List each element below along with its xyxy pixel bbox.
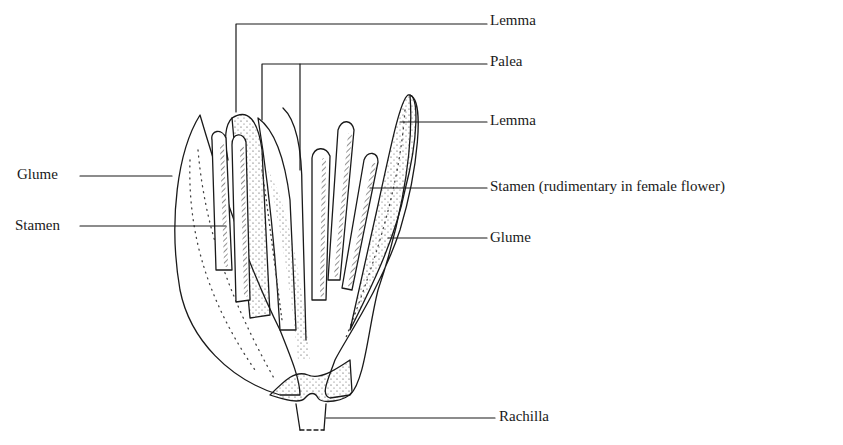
- spikelet-diagram: Lemma Palea Lemma Glume Stamen Stamen (r…: [0, 0, 843, 445]
- rachilla-shape: [296, 404, 300, 430]
- label-lemma-right: Lemma: [490, 111, 536, 129]
- spikelet-illustration: [0, 0, 843, 445]
- label-stamen-left: Stamen: [15, 216, 60, 234]
- label-lemma-top: Lemma: [490, 11, 536, 29]
- label-stamen-right: Stamen (rudimentary in female flower): [490, 177, 725, 195]
- label-glume-right: Glume: [490, 228, 531, 246]
- label-glume-left: Glume: [17, 165, 58, 183]
- label-rachilla: Rachilla: [499, 407, 549, 425]
- label-palea: Palea: [490, 52, 522, 70]
